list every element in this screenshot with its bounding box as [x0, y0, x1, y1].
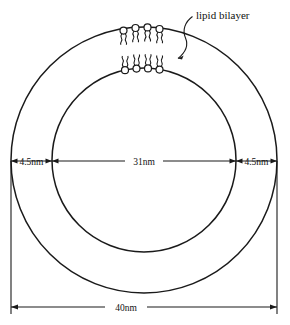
- dimension-label-left-thickness: 4.5nm: [19, 157, 44, 167]
- lipid-molecule: [120, 27, 127, 45]
- lipid-tail-wavy-icon: [149, 31, 150, 42]
- lipid-tail-wavy-icon: [127, 56, 128, 67]
- lipid-tail-wavy-icon: [145, 54, 146, 65]
- lipid-molecule: [122, 56, 129, 74]
- lipid-molecule: [145, 54, 152, 72]
- lipid-tail-wavy-icon: [138, 54, 139, 65]
- lipid-head-circle-icon: [145, 65, 152, 72]
- lipid-molecule: [156, 26, 163, 44]
- lipid-tail-wavy-icon: [157, 32, 158, 43]
- arrowhead-mid-right-icon: [230, 159, 237, 164]
- lipid-tail-wavy-icon: [125, 34, 126, 45]
- dimension-label-outer-diameter: 40nm: [115, 303, 137, 313]
- lipid-molecule: [156, 55, 163, 73]
- arrowhead-bottom-right-icon: [270, 304, 277, 309]
- lipid-molecule: [133, 54, 140, 72]
- callout-leader-line-icon: [178, 17, 193, 59]
- dimension-label-inner-diameter: 31nm: [133, 157, 155, 167]
- arrowhead-left-outer-icon: [11, 159, 18, 164]
- arrowhead-left-inner-icon: [46, 159, 53, 164]
- arrowhead-right-inner-icon: [236, 159, 243, 164]
- lipid-tail-wavy-icon: [121, 34, 122, 45]
- dimension-label-right-thickness: 4.5nm: [244, 157, 269, 167]
- lipid-head-circle-icon: [120, 27, 127, 34]
- lipid-head-circle-icon: [144, 24, 151, 31]
- lipid-molecule: [144, 24, 151, 42]
- inner-leaflet-group: [122, 54, 164, 74]
- lipid-tail-wavy-icon: [137, 31, 138, 42]
- arrowhead-right-outer-icon: [271, 159, 278, 164]
- lipid-tail-wavy-icon: [161, 55, 162, 66]
- lipid-tail-wavy-icon: [134, 54, 135, 65]
- lipid-tail-wavy-icon: [161, 32, 162, 43]
- lipid-head-circle-icon: [132, 25, 139, 32]
- lipid-molecule: [132, 25, 139, 43]
- lipid-head-circle-icon: [133, 65, 140, 72]
- lipid-head-circle-icon: [122, 67, 129, 74]
- lipid-tail-wavy-icon: [150, 54, 151, 65]
- lipid-head-circle-icon: [156, 66, 163, 73]
- arrowhead-mid-left-icon: [52, 159, 59, 164]
- diagram-canvas: lipid bilayer 4.5nm 31nm 4.5nm 40nm: [0, 0, 290, 325]
- callout-label: lipid bilayer: [196, 9, 250, 21]
- vesicle-diagram: lipid bilayer 4.5nm 31nm 4.5nm 40nm: [0, 0, 290, 325]
- lipid-tail-wavy-icon: [122, 56, 123, 67]
- lipid-tail-wavy-icon: [145, 31, 146, 42]
- lipid-head-circle-icon: [156, 26, 163, 33]
- lipid-tail-wavy-icon: [133, 31, 134, 42]
- lipid-tail-wavy-icon: [157, 55, 158, 66]
- arrowhead-bottom-left-icon: [11, 304, 18, 309]
